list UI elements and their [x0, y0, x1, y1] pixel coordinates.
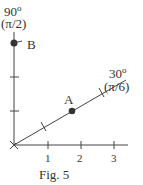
x-tick-label-3: 3	[111, 153, 117, 164]
figure-caption: Fig. 5	[39, 168, 69, 181]
diagonal-angle-label: 30o	[109, 64, 127, 80]
vertical-angle-rad-label: (π/2)	[1, 17, 26, 30]
diagonal-angle-rad-label: (π/6)	[104, 80, 129, 93]
x-tick-label-1: 1	[45, 153, 51, 164]
point-b-label: B	[27, 38, 36, 51]
x-tick-label-2: 2	[77, 153, 83, 164]
point-a-label: A	[64, 93, 73, 106]
point-a	[69, 108, 76, 115]
